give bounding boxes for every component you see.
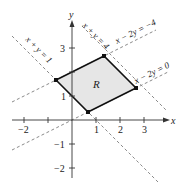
vertex-dot	[134, 86, 138, 90]
y-tick-label: 3	[60, 43, 65, 54]
vertex-dot	[102, 54, 106, 58]
x-tick-label: 1	[94, 124, 99, 135]
y-axis-arrow-icon	[70, 20, 75, 27]
region-diagram: x y −2 1 2 3 3 1 −1 −2 R x + y = 1 x + y…	[0, 0, 178, 187]
x-tick-label: −2	[18, 124, 29, 135]
x-axis-arrow-icon	[163, 118, 170, 123]
y-tick-label: 1	[61, 91, 66, 102]
diagram-canvas: x y −2 1 2 3 3 1 −1 −2 R x + y = 1 x + y…	[0, 0, 178, 187]
y-tick-label: −1	[54, 139, 65, 150]
y-tick-label: −2	[54, 163, 65, 174]
y-axis-label: y	[68, 9, 74, 20]
line-label-x-minus-2y-eq-neg4: x − 2y = −4	[113, 17, 158, 46]
x-axis-label: x	[170, 115, 176, 126]
region-label: R	[92, 78, 100, 90]
line-label-x-plus-y-eq-1: x + y = 1	[23, 34, 55, 66]
vertex-dot	[86, 110, 90, 114]
line-label-x-plus-y-eq-4: x + y = 4	[80, 20, 112, 52]
x-tick-label: 2	[118, 124, 123, 135]
x-tick-label: 3	[142, 124, 147, 135]
vertex-dot	[54, 78, 58, 82]
